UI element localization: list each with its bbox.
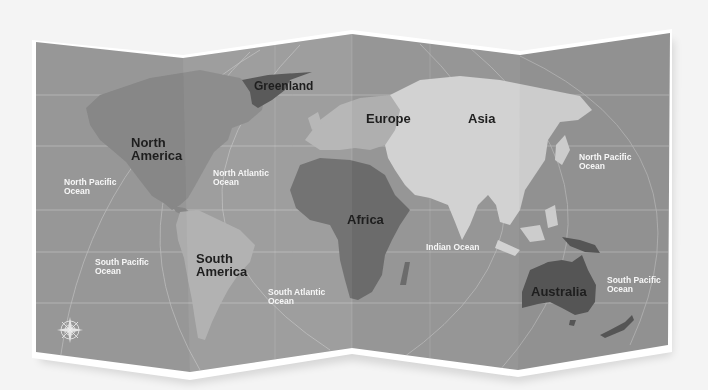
label-north-america: North America (131, 136, 182, 162)
fold-shade-left (36, 42, 190, 372)
label-south-pacific-east: South Pacific Ocean (607, 276, 661, 294)
fold-shade-center-right (352, 34, 520, 370)
label-south-america: South America (196, 252, 247, 278)
label-asia: Asia (468, 112, 495, 125)
folded-world-map: Greenland North America Europe Asia Afri… (0, 0, 708, 390)
label-greenland: Greenland (254, 80, 313, 92)
label-north-pacific-west: North Pacific Ocean (64, 178, 116, 196)
label-africa: Africa (347, 213, 384, 226)
label-south-pacific-west: South Pacific Ocean (95, 258, 149, 276)
label-australia: Australia (531, 285, 587, 298)
label-indian-ocean: Indian Ocean (426, 243, 479, 252)
label-north-atlantic: North Atlantic Ocean (213, 169, 269, 187)
label-south-atlantic: South Atlantic Ocean (268, 288, 325, 306)
label-europe: Europe (366, 112, 411, 125)
fold-shade-right (518, 33, 670, 370)
label-north-pacific-east: North Pacific Ocean (579, 153, 631, 171)
